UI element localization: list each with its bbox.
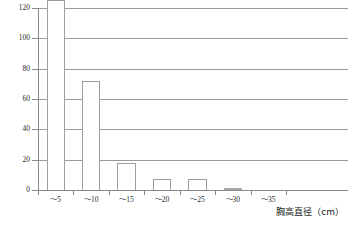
bars-group [38,8,286,190]
bar [153,179,171,190]
bar [47,0,65,190]
x-tick-label: ～35 [248,196,288,204]
x-tick-mark [251,190,252,195]
x-tick-label: ～10 [71,196,111,204]
x-tick-mark [73,190,74,195]
histogram-chart: 020406080100120 ～5～10～15～20～25～30～35 胸高直… [0,0,348,227]
bar [117,163,135,190]
y-tick-label-20: 20 [2,156,30,164]
x-tick-label: ～30 [213,196,253,204]
gridline-0 [38,190,348,191]
x-tick-mark [38,190,39,195]
y-tick-label-120: 120 [2,4,30,12]
x-tick-mark [109,190,110,195]
x-tick-mark [286,190,287,195]
x-tick-mark [180,190,181,195]
x-tick-label: ～25 [177,196,217,204]
bar [82,81,100,190]
x-tick-label: ～20 [142,196,182,204]
x-tick-mark [144,190,145,195]
y-tick-label-80: 80 [2,65,30,73]
y-tick-label-100: 100 [2,35,30,43]
x-axis-title: 胸高直径（cm） [276,208,344,218]
bar [224,188,242,190]
x-tick-label: ～15 [107,196,147,204]
y-tick-label-40: 40 [2,126,30,134]
x-tick-mark [215,190,216,195]
y-tick-label-0: 0 [2,186,30,194]
bar [188,179,206,190]
x-tick-label: ～5 [36,196,76,204]
y-tick-label-60: 60 [2,95,30,103]
